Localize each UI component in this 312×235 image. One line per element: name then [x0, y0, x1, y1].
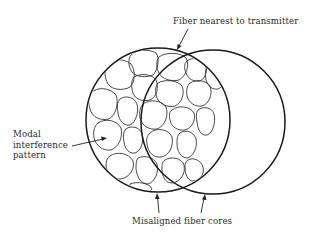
label-misaligned-fiber-cores: Misaligned fiber cores [132, 216, 232, 227]
label-line: pattern [13, 150, 68, 161]
right-fiber-core [141, 50, 285, 194]
arrow-to-right-core [201, 194, 207, 213]
modal-interference-pattern [89, 50, 226, 193]
arrow-to-near-fiber [177, 29, 188, 50]
label-modal-interference-pattern: Modal interference pattern [13, 129, 68, 161]
fiber-misalignment-diagram [0, 0, 312, 235]
label-fiber-nearest-transmitter: Fiber nearest to transmitter [173, 16, 298, 27]
label-line: Modal [13, 129, 68, 140]
label-line: interference [13, 140, 68, 151]
arrow-to-left-core [155, 193, 160, 213]
